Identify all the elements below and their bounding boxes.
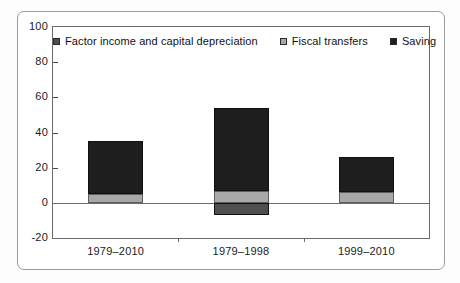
legend-label: Factor income and capital depreciation (65, 35, 258, 47)
y-axis-tick-mark (53, 62, 58, 63)
plot-area (53, 27, 429, 238)
bar-segment (214, 108, 269, 191)
bar-segment (339, 157, 394, 192)
bar-segment (88, 194, 143, 203)
y-axis-tick-label: 0 (14, 197, 48, 208)
legend-entry: Saving (390, 35, 436, 47)
y-axis-tick-label: 40 (14, 127, 48, 138)
legend-swatch-icon (280, 38, 287, 45)
chart-figure: 100806040200-20 1979–20101979–19981999–2… (0, 0, 460, 283)
y-axis-tick-mark (53, 133, 58, 134)
y-axis-tick-mark (53, 168, 58, 169)
legend-entry: Factor income and capital depreciation (53, 35, 258, 47)
y-axis-tick-label: 60 (14, 91, 48, 102)
legend-label: Fiscal transfers (292, 35, 368, 47)
y-axis-tick-label: -20 (14, 232, 48, 243)
x-axis-tick-label: 1979–1998 (213, 245, 270, 257)
y-axis-tick-label: 80 (14, 56, 48, 67)
x-axis-tick-mark (304, 238, 305, 242)
bar-segment (214, 203, 269, 215)
x-axis-tick-mark (178, 238, 179, 242)
y-axis-tick-label: 100 (14, 21, 48, 32)
bar-segment (88, 141, 143, 194)
y-axis-tick-mark (53, 97, 58, 98)
bar-segment (339, 192, 394, 203)
x-axis: 1979–20101979–19981999–2010 (53, 245, 429, 261)
legend-entry: Fiscal transfers (280, 35, 368, 47)
x-axis-tick-label: 1999–2010 (338, 245, 395, 257)
bar-segment (214, 191, 269, 203)
legend-swatch-icon (53, 38, 60, 45)
x-axis-tick-label: 1979–2010 (87, 245, 144, 257)
y-axis: 100806040200-20 (10, 26, 48, 239)
legend-label: Saving (402, 35, 436, 47)
chart-legend: Factor income and capital depreciationFi… (53, 33, 458, 49)
legend-swatch-icon (390, 38, 397, 45)
y-axis-tick-label: 20 (14, 162, 48, 173)
